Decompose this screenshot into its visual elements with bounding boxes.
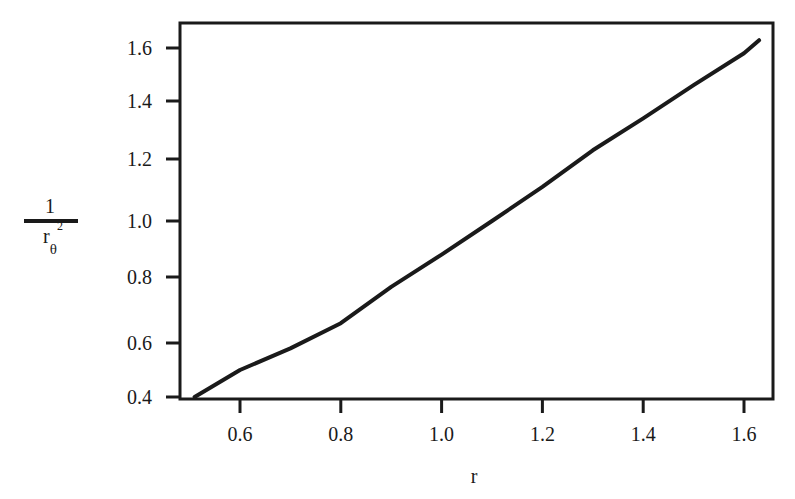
y-label-subscript: θ xyxy=(50,241,57,257)
plot-border xyxy=(180,23,773,399)
series-line xyxy=(195,40,760,397)
y-tick-label: 0.8 xyxy=(127,266,152,288)
y-axis-label-numerator: 1 xyxy=(20,196,80,216)
data-curve xyxy=(195,40,760,397)
x-tick-label: 1.6 xyxy=(732,423,757,445)
x-tick-label: 0.8 xyxy=(328,423,353,445)
y-tick-label: 1.6 xyxy=(127,37,152,59)
x-tick-label: 1.2 xyxy=(530,423,555,445)
y-tick-label: 1.4 xyxy=(127,90,152,112)
y-tick-label: 1.2 xyxy=(127,148,152,170)
y-axis-ticks: 0.40.60.81.01.21.41.6 xyxy=(127,37,180,408)
y-axis-label: 1 r2θ xyxy=(20,196,80,254)
fraction-bar xyxy=(24,219,78,223)
x-axis-label: r xyxy=(471,465,478,487)
y-label-r: r xyxy=(43,225,50,247)
y-tick-label: 1.0 xyxy=(127,210,152,232)
y-tick-label: 0.6 xyxy=(127,332,152,354)
line-chart: 0.40.60.81.01.21.41.6 0.60.81.01.21.41.6… xyxy=(0,0,795,499)
x-axis-ticks: 0.60.81.01.21.41.6 xyxy=(228,399,757,445)
x-tick-label: 1.4 xyxy=(631,423,656,445)
y-label-superscript: 2 xyxy=(57,215,63,237)
x-tick-label: 0.6 xyxy=(228,423,253,445)
plot-frame xyxy=(180,23,773,399)
x-tick-label: 1.0 xyxy=(429,423,454,445)
y-tick-label: 0.4 xyxy=(127,386,152,408)
y-axis-label-denominator: r2θ xyxy=(43,225,57,254)
